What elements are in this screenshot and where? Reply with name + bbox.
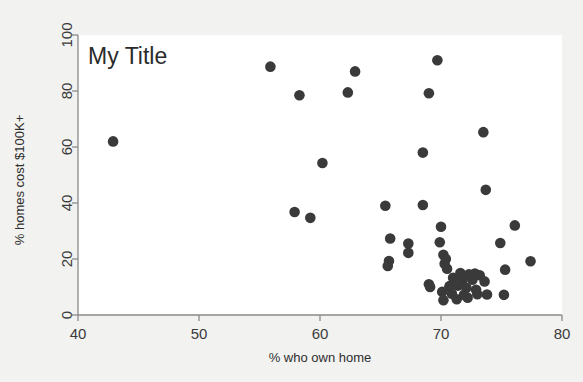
data-point bbox=[403, 248, 414, 259]
data-point bbox=[451, 294, 462, 305]
data-point bbox=[418, 200, 429, 211]
data-point bbox=[434, 237, 445, 248]
chart-title: My Title bbox=[88, 43, 167, 69]
y-tick-label: 40 bbox=[58, 195, 75, 212]
data-point bbox=[480, 185, 491, 196]
data-point bbox=[350, 66, 361, 77]
data-point bbox=[418, 147, 429, 158]
data-point bbox=[499, 290, 510, 301]
chart-figure: 4050607080 020406080100 My Title % who o… bbox=[0, 0, 583, 382]
x-tick-label: 60 bbox=[312, 325, 329, 342]
x-tick-label: 40 bbox=[70, 325, 87, 342]
y-tick-label: 80 bbox=[58, 83, 75, 100]
x-tick-label: 70 bbox=[433, 325, 450, 342]
x-axis-label: % who own home bbox=[269, 350, 372, 365]
data-point bbox=[265, 61, 276, 72]
plot-area-background bbox=[78, 35, 562, 315]
data-point bbox=[403, 238, 414, 249]
data-point bbox=[482, 289, 493, 300]
data-point bbox=[462, 292, 473, 303]
x-tick-label: 50 bbox=[191, 325, 208, 342]
data-point bbox=[442, 264, 453, 275]
y-tick-label: 100 bbox=[58, 22, 75, 47]
data-point bbox=[425, 282, 436, 293]
data-point bbox=[472, 289, 483, 300]
scatter-plot: 4050607080 020406080100 My Title % who o… bbox=[0, 0, 583, 382]
y-tick-label: 0 bbox=[58, 311, 75, 319]
x-tick-label: 80 bbox=[554, 325, 571, 342]
data-point bbox=[479, 276, 490, 287]
y-tick-label: 20 bbox=[58, 251, 75, 268]
data-point bbox=[294, 90, 305, 101]
data-point bbox=[478, 127, 489, 138]
y-axis-label: % homes cost $100K+ bbox=[12, 115, 27, 245]
data-point bbox=[305, 213, 316, 224]
data-point bbox=[500, 264, 511, 275]
data-point bbox=[343, 87, 354, 98]
data-point bbox=[317, 158, 328, 169]
data-point bbox=[289, 207, 300, 218]
y-tick-label: 60 bbox=[58, 139, 75, 156]
data-point bbox=[436, 222, 447, 233]
data-point bbox=[385, 233, 396, 244]
data-point bbox=[510, 220, 521, 231]
data-point bbox=[432, 55, 443, 66]
data-point bbox=[424, 88, 435, 99]
data-point bbox=[108, 136, 119, 147]
data-point bbox=[380, 201, 391, 212]
data-point bbox=[438, 295, 449, 306]
data-point bbox=[495, 238, 506, 249]
data-point bbox=[525, 256, 536, 267]
data-point bbox=[382, 261, 393, 272]
